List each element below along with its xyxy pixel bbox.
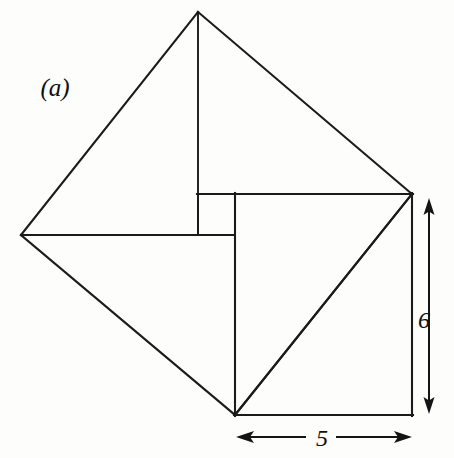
axis-aligned-square-group [197, 193, 413, 416]
tilted-upper-left-edge [21, 12, 198, 235]
geometry-diagram: (a) 6 5 [0, 0, 454, 458]
vertical-dimension-label: 6 [418, 307, 430, 333]
tilted-square-group [21, 12, 412, 415]
figure-container: (a) 6 5 [0, 0, 454, 458]
right-angle-marker [198, 194, 235, 235]
tilted-upper-right-edge [198, 12, 412, 194]
tilted-lower-left-edge [21, 235, 235, 415]
panel-label: (a) [40, 74, 69, 102]
horizontal-dimension-label: 5 [316, 425, 328, 451]
square-diagonal [235, 194, 412, 415]
vertical-dimension-group [424, 198, 435, 414]
internal-construction-lines [21, 12, 236, 236]
